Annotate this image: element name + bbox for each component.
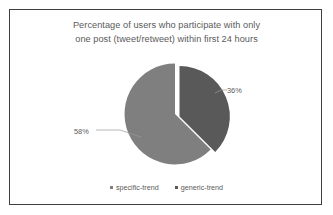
legend-label: specific-trend — [116, 183, 159, 192]
legend-label: generic-trend — [181, 183, 223, 192]
chart-legend: specific-trend generic-trend — [10, 183, 323, 192]
chart-card: Percentage of users who participate with… — [9, 9, 322, 205]
pie-chart — [10, 10, 323, 206]
data-label-specific-trend: 58% — [74, 127, 89, 136]
legend-item-generic-trend[interactable]: generic-trend — [175, 183, 223, 192]
legend-swatch-icon — [175, 186, 178, 189]
legend-item-specific-trend[interactable]: specific-trend — [110, 183, 159, 192]
legend-swatch-icon — [110, 186, 113, 189]
plot-area: 36% 58% specific-trend generic-trend — [10, 10, 323, 206]
data-label-generic-trend: 36% — [227, 86, 242, 95]
